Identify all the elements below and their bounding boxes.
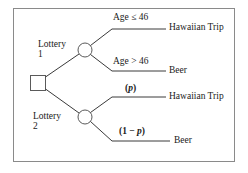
chance-node-lottery2 <box>78 110 92 124</box>
edge-decision-to-lottery2 <box>46 89 80 113</box>
branch-label-age-le-46: Age ≤ 46 <box>113 13 148 23</box>
lottery2-label-line2: 2 <box>33 122 61 132</box>
decision-node-square <box>31 76 46 91</box>
chance-node-lottery2-label: Lottery 2 <box>33 112 61 132</box>
outcome-label-beer-2: Beer <box>174 136 192 146</box>
branch-label-probability-1-minus-p: (1 − p) <box>119 127 145 137</box>
outcome-label-beer-1: Beer <box>169 66 187 76</box>
lottery1-label-line1: Lottery <box>38 39 66 49</box>
outcome-label-hawaiian-trip-2: Hawaiian Trip <box>169 92 224 102</box>
chance-node-lottery1-label: Lottery 1 <box>38 40 66 60</box>
prob-1mp-suffix: ) <box>142 126 145 136</box>
outcome-label-hawaiian-trip-1: Hawaiian Trip <box>169 23 224 33</box>
decision-tree-figure: Lottery 1 Lottery 2 Age ≤ 46 Age > 46 (p… <box>0 0 248 173</box>
chance-node-lottery1 <box>78 43 92 57</box>
edge-prob-p <box>91 97 167 113</box>
prob-p-suffix: ) <box>133 83 136 93</box>
lottery2-label-line1: Lottery <box>33 111 61 121</box>
lottery1-label-line2: 1 <box>38 50 66 60</box>
branch-label-age-gt-46: Age > 46 <box>113 57 148 67</box>
branch-label-probability-p: (p) <box>125 84 136 94</box>
prob-1mp-prefix: (1 − <box>119 126 137 136</box>
edge-age-le-46 <box>91 29 167 46</box>
